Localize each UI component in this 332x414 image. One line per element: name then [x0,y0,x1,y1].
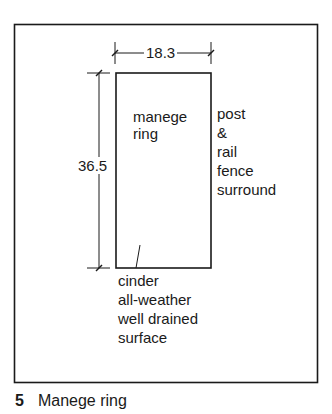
ring-label: manege ring [133,108,187,142]
fence-label-line: fence [217,161,276,180]
surface-label-line: well drained [118,309,198,328]
fence-label-line: surround [217,180,276,199]
fence-label: post & rail fence surround [217,104,276,199]
figure-caption: 5Manege ring [15,392,127,410]
diagram-drawing [0,0,332,414]
surface-label-line: surface [118,328,198,347]
surface-label-line: all-weather [118,290,198,309]
ring-label-line1: manege [133,108,187,125]
fence-label-line: rail [217,142,276,161]
width-dimension-label: 18.3 [144,44,177,61]
figure-number: 5 [15,392,24,409]
surface-label: cinder all-weather well drained surface [118,271,198,347]
ring-label-line2: ring [133,125,187,142]
figure-caption-text: Manege ring [38,392,127,409]
manege-ring-outline [116,73,211,268]
fence-label-line: post [217,104,276,123]
fence-label-line: & [217,123,276,142]
surface-leader-line [136,245,140,268]
length-dimension-label: 36.5 [76,157,109,174]
surface-label-line: cinder [118,271,198,290]
